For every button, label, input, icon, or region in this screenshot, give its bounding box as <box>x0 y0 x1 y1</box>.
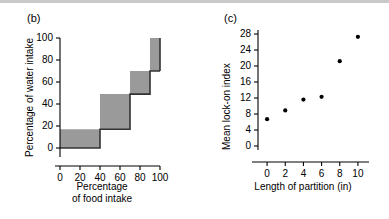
panel-c: (c) Mean lock-on index 04812162024280246… <box>195 0 389 219</box>
panel-c-y-tick-label: 28 <box>240 28 252 39</box>
scatter-point <box>283 108 287 112</box>
panel-b-y-tick-label: 80 <box>42 54 54 65</box>
panel-c-y-axis-label: Mean lock-on index <box>221 63 232 150</box>
scatter-point <box>301 98 305 102</box>
panel-b-x-axis-label-line2: of food intake <box>42 193 162 205</box>
panel-b-y-tick-label: 60 <box>42 76 54 87</box>
scatter-point <box>356 35 360 39</box>
panel-b-label: (b) <box>27 12 40 24</box>
panel-c-x-tick-label: 6 <box>319 168 325 179</box>
panel-c-y-tick-label: 20 <box>240 60 252 71</box>
panel-c-x-tick-label: 8 <box>337 168 343 179</box>
panel-b: (b) Percentage of water intake 020406080… <box>0 0 195 219</box>
panel-b-y-tick-label: 100 <box>36 32 53 43</box>
panel-c-y-tick-label: 4 <box>245 124 251 135</box>
figure-container: (b) Percentage of water intake 020406080… <box>0 0 389 219</box>
panel-c-x-tick-label: 2 <box>282 168 288 179</box>
panel-b-x-axis-label-line1: Percentage <box>42 181 162 193</box>
panel-c-x-axis-label: Length of partition (in) <box>223 181 383 193</box>
scatter-point <box>265 117 269 121</box>
panel-b-y-axis-label: Percentage of water intake <box>24 38 35 157</box>
panel-b-y-tick-label: 0 <box>47 142 53 153</box>
panel-c-y-tick-label: 12 <box>240 92 252 103</box>
panel-b-y-tick-label: 40 <box>42 98 54 109</box>
panel-c-x-tick-label: 4 <box>301 168 307 179</box>
panel-b-y-tick-label: 20 <box>42 120 54 131</box>
panel-c-y-tick-label: 0 <box>245 140 251 151</box>
step-area-fill <box>60 38 160 148</box>
scatter-point <box>319 95 323 99</box>
panel-c-y-tick-label: 8 <box>245 108 251 119</box>
panel-c-x-tick-label: 10 <box>352 168 364 179</box>
panel-c-y-tick-label: 24 <box>240 44 252 55</box>
panel-c-label: (c) <box>224 12 237 24</box>
scatter-point <box>338 59 342 63</box>
panel-c-x-tick-label: 0 <box>264 168 270 179</box>
panel-c-y-tick-label: 16 <box>240 76 252 87</box>
